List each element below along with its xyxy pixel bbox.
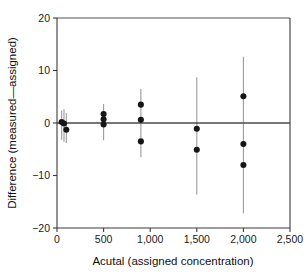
y-tick-label: 0 — [44, 117, 50, 129]
data-point — [240, 93, 246, 99]
data-point — [194, 126, 200, 132]
data-point — [138, 138, 144, 144]
data-point — [240, 162, 246, 168]
x-tick-label: 2,000 — [230, 233, 256, 245]
x-tick-label: 1,500 — [184, 233, 210, 245]
x-tick-label: 500 — [95, 233, 113, 245]
y-tick-label: −10 — [32, 169, 50, 181]
data-point — [101, 116, 107, 122]
error-bars-group — [62, 57, 244, 213]
y-axis-ticks: 20100−10−20 — [32, 12, 57, 234]
x-tick-label: 0 — [54, 233, 60, 245]
data-point — [101, 111, 107, 117]
data-point — [101, 122, 107, 128]
data-point — [138, 117, 144, 123]
y-tick-label: −20 — [32, 222, 50, 234]
x-tick-label: 1,000 — [137, 233, 163, 245]
x-tick-label: 2,500 — [277, 233, 303, 245]
y-tick-label: 20 — [38, 12, 50, 24]
y-tick-label: 10 — [38, 64, 50, 76]
y-axis-title: Difference (measured—assigned) — [6, 37, 18, 209]
data-points-group — [59, 93, 247, 168]
data-point — [63, 127, 69, 133]
x-axis-title: Acutal (assigned concentration) — [92, 255, 253, 267]
chart-container: 20100−10−20 05001,0001,5002,0002,500 Acu… — [0, 0, 307, 275]
data-point — [194, 147, 200, 153]
data-point — [138, 102, 144, 108]
data-point — [240, 141, 246, 147]
scatter-plot-canvas: 20100−10−20 05001,0001,5002,0002,500 Acu… — [0, 0, 307, 275]
x-axis-ticks: 05001,0001,5002,0002,500 — [54, 228, 303, 245]
data-point — [61, 120, 67, 126]
